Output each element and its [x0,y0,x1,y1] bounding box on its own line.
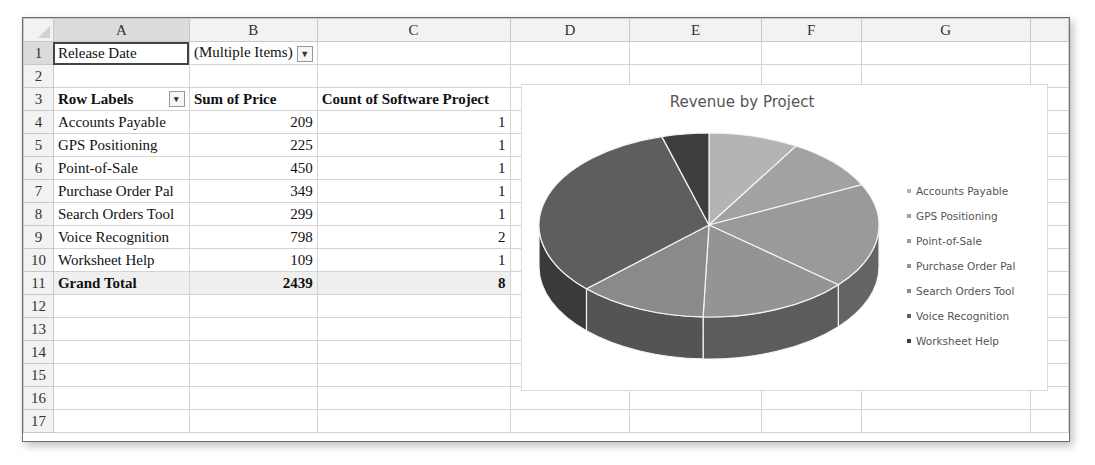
legend-item[interactable]: GPS Positioning [907,203,1015,228]
pie-chart[interactable]: Revenue by Project Accounts PayableGPS P… [521,84,1048,391]
row-header[interactable]: 1 [24,42,54,65]
row-header[interactable]: 7 [24,180,54,203]
cell[interactable] [1031,410,1069,433]
pivot-header-count-project[interactable]: Count of Software Project [317,88,510,111]
cell[interactable] [53,341,189,364]
row-header[interactable]: 5 [24,134,54,157]
cell[interactable] [317,364,510,387]
grand-total-count[interactable]: 8 [317,272,510,295]
row-header[interactable]: 9 [24,226,54,249]
column-header-f[interactable]: F [761,19,861,42]
pivot-row-price[interactable]: 450 [189,157,317,180]
cell[interactable] [317,341,510,364]
pivot-row-label[interactable]: Accounts Payable [53,111,189,134]
pivot-row-label[interactable]: Purchase Order Pal [53,180,189,203]
cell[interactable] [189,410,317,433]
pivot-row-count[interactable]: 1 [317,203,510,226]
column-header-d[interactable]: D [510,19,630,42]
pivot-row-label[interactable]: Worksheet Help [53,249,189,272]
grand-total-label[interactable]: Grand Total [53,272,189,295]
cell[interactable] [53,295,189,318]
pivot-row-price[interactable]: 209 [189,111,317,134]
cell[interactable] [317,65,510,88]
cell[interactable] [1031,42,1069,65]
row-header[interactable]: 17 [24,410,54,433]
cell[interactable] [189,341,317,364]
column-header-c[interactable]: C [317,19,510,42]
column-header-g[interactable]: G [861,19,1030,42]
pivot-row-count[interactable]: 1 [317,134,510,157]
pivot-header-row-labels[interactable]: Row Labels▾ [53,88,189,111]
pie-plot-area[interactable] [537,130,907,380]
row-header[interactable]: 11 [24,272,54,295]
row-header[interactable]: 14 [24,341,54,364]
cell[interactable] [189,65,317,88]
row-header[interactable]: 16 [24,387,54,410]
chart-title[interactable]: Revenue by Project [522,93,962,111]
cell[interactable] [53,65,189,88]
column-header-a[interactable]: A [53,19,189,42]
pivot-header-sum-price[interactable]: Sum of Price [189,88,317,111]
cell[interactable] [317,318,510,341]
pivot-row-price[interactable]: 299 [189,203,317,226]
cell[interactable] [317,295,510,318]
row-header[interactable]: 2 [24,65,54,88]
cell[interactable] [53,318,189,341]
cell[interactable] [317,42,510,65]
fill-handle[interactable] [187,62,190,65]
filter-value-cell[interactable]: (Multiple Items)▼ [189,42,317,65]
pivot-row-price[interactable]: 109 [189,249,317,272]
cell[interactable] [53,387,189,410]
cell[interactable] [510,42,630,65]
cell[interactable] [630,410,762,433]
cell[interactable] [53,410,189,433]
filter-label-cell[interactable]: Release Date [53,42,189,65]
cell[interactable] [317,410,510,433]
cell[interactable] [189,295,317,318]
row-header[interactable]: 8 [24,203,54,226]
filter-dropdown-icon[interactable]: ▼ [297,46,313,62]
chart-legend[interactable]: Accounts PayableGPS PositioningPoint-of-… [907,178,1015,353]
column-header-h[interactable] [1031,19,1069,42]
legend-item[interactable]: Purchase Order Pal [907,253,1015,278]
legend-item[interactable]: Point-of-Sale [907,228,1015,253]
pivot-row-label[interactable]: Voice Recognition [53,226,189,249]
pivot-row-price[interactable]: 798 [189,226,317,249]
row-labels-dropdown-icon[interactable]: ▾ [169,91,185,107]
row-header[interactable]: 15 [24,364,54,387]
legend-item[interactable]: Voice Recognition [907,303,1015,328]
pivot-row-count[interactable]: 1 [317,157,510,180]
pivot-row-price[interactable]: 225 [189,134,317,157]
cell[interactable] [317,387,510,410]
pivot-row-count[interactable]: 1 [317,111,510,134]
cell[interactable] [630,42,762,65]
column-header-b[interactable]: B [189,19,317,42]
cell[interactable] [53,364,189,387]
grand-total-price[interactable]: 2439 [189,272,317,295]
row-header[interactable]: 10 [24,249,54,272]
row-header[interactable]: 6 [24,157,54,180]
column-header-e[interactable]: E [630,19,762,42]
pivot-row-label[interactable]: Search Orders Tool [53,203,189,226]
cell[interactable] [189,364,317,387]
select-all-corner[interactable] [24,19,54,42]
pivot-row-count[interactable]: 1 [317,180,510,203]
legend-item[interactable]: Search Orders Tool [907,278,1015,303]
pivot-row-label[interactable]: Point-of-Sale [53,157,189,180]
row-header[interactable]: 12 [24,295,54,318]
row-header[interactable]: 4 [24,111,54,134]
cell[interactable] [761,42,861,65]
pivot-row-count[interactable]: 1 [317,249,510,272]
pivot-row-label[interactable]: GPS Positioning [53,134,189,157]
cell[interactable] [189,318,317,341]
cell[interactable] [861,410,1030,433]
cell[interactable] [861,42,1030,65]
row-header[interactable]: 13 [24,318,54,341]
legend-item[interactable]: Accounts Payable [907,178,1015,203]
cell[interactable] [510,410,630,433]
cell[interactable] [189,387,317,410]
legend-item[interactable]: Worksheet Help [907,328,1015,353]
row-header[interactable]: 3 [24,88,54,111]
pivot-row-price[interactable]: 349 [189,180,317,203]
pivot-row-count[interactable]: 2 [317,226,510,249]
